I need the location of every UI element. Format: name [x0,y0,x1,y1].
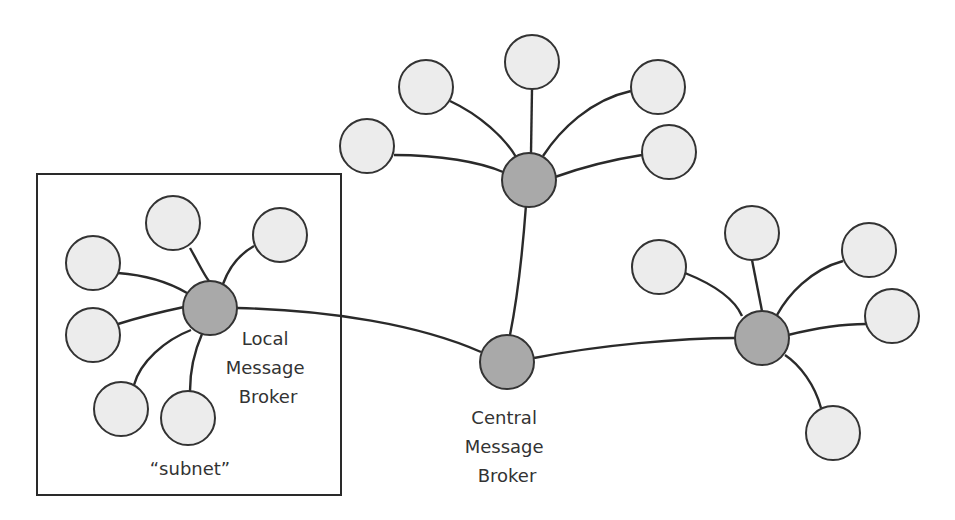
client-node[interactable] [631,60,685,114]
client-node[interactable] [632,240,686,294]
central-broker-label: Central Message Broker [465,407,550,486]
subnet-label: “subnet” [150,458,230,479]
client-node[interactable] [725,206,779,260]
local-message-broker[interactable] [183,281,237,335]
right-message-broker[interactable] [735,311,789,365]
client-node[interactable] [340,119,394,173]
top-message-broker[interactable] [502,153,556,207]
client-node[interactable] [94,382,148,436]
client-node[interactable] [253,208,307,262]
client-node[interactable] [505,35,559,89]
client-node[interactable] [66,236,120,290]
client-node[interactable] [806,406,860,460]
client-node[interactable] [66,308,120,362]
client-node[interactable] [865,289,919,343]
local-broker-label: Local Message Broker [226,328,311,407]
client-node[interactable] [642,125,696,179]
edge-top-central [510,205,526,335]
central-message-broker[interactable] [480,335,534,389]
client-node[interactable] [399,60,453,114]
client-node[interactable] [161,391,215,445]
message-broker-network-diagram: Local Message Broker Central Message Bro… [0,0,955,520]
client-node[interactable] [842,223,896,277]
edge-central-right [534,338,735,358]
client-node[interactable] [146,196,200,250]
